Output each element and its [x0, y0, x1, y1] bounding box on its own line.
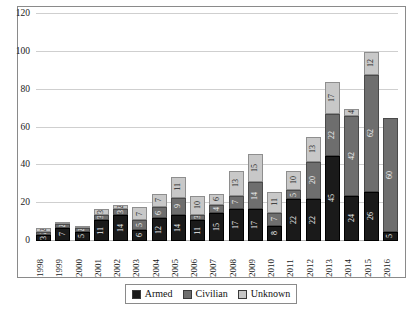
bar-segment-unknown[interactable]: 11	[171, 177, 186, 198]
bar-segment-armed[interactable]: 14	[171, 215, 186, 241]
bar-value-label: 17	[232, 221, 240, 229]
bar-value-label: 5	[290, 193, 298, 197]
bar-segment-civilian[interactable]: 62	[364, 75, 379, 192]
bar-segment-civilian[interactable]: 4	[209, 205, 224, 213]
bar-segment-armed[interactable]: 3	[36, 235, 51, 241]
bar-segment-unknown[interactable]: 10	[190, 196, 205, 215]
bar-value-label: 5	[386, 234, 394, 238]
bar-segment-armed[interactable]: 22	[286, 199, 301, 241]
bar-value-label: 6	[213, 197, 221, 201]
bar-segment-civilian[interactable]: 5	[286, 190, 301, 199]
bar-value-label: 6	[136, 233, 144, 237]
bar-column[interactable]: 151417	[248, 14, 263, 241]
plot-area: 2231271253311231475676121191410311641513…	[36, 14, 398, 241]
bar-value-label: 62	[367, 129, 375, 137]
bar-segment-armed[interactable]: 14	[113, 215, 128, 241]
bar-segment-unknown[interactable]: 6	[209, 194, 224, 205]
bar-segment-civilian[interactable]: 20	[306, 162, 321, 200]
bar-column[interactable]: 7612	[152, 14, 167, 241]
bar-column[interactable]: 10522	[286, 14, 301, 241]
bar-value-label: 22	[309, 216, 317, 224]
bar-segment-armed[interactable]: 11	[94, 220, 109, 241]
bar-column[interactable]: 132022	[306, 14, 321, 241]
y-tick-label: 80	[21, 85, 31, 95]
bar-segment-unknown[interactable]: 12	[364, 52, 379, 75]
x-tick-label: 2002	[113, 243, 128, 277]
bar-segment-armed[interactable]: 24	[344, 196, 359, 241]
bar-value-label: 7	[271, 217, 279, 221]
bar-segment-armed[interactable]: 22	[306, 199, 321, 241]
bar-column[interactable]: 756	[132, 14, 147, 241]
x-tick-label: 2007	[209, 243, 224, 277]
x-tick-label: 2014	[344, 243, 359, 277]
bar-column[interactable]: 3311	[94, 14, 109, 241]
y-tick-label: 60	[21, 123, 31, 133]
bar-segment-armed[interactable]: 17	[248, 209, 263, 241]
bar-segment-unknown[interactable]: 13	[306, 137, 321, 162]
bar-value-label: 22	[290, 216, 298, 224]
legend-label: Unknown	[251, 289, 290, 299]
x-axis: 1998199920002001200220032004200520062007…	[36, 243, 398, 277]
bar-column[interactable]: 127	[55, 14, 70, 241]
bar-segment-civilian[interactable]: 14	[248, 182, 263, 208]
bar-column[interactable]: 11914	[171, 14, 186, 241]
bar-segment-armed[interactable]: 12	[152, 218, 167, 241]
bar-value-label: 5	[78, 234, 86, 238]
bar-segment-civilian[interactable]: 7	[229, 196, 244, 209]
bar-segment-unknown[interactable]: 7	[152, 194, 167, 207]
bar-column[interactable]: 10311	[190, 14, 205, 241]
bar-column[interactable]: 172245	[325, 14, 340, 241]
bar-column[interactable]: 125	[75, 14, 90, 241]
bar-segment-armed[interactable]: 5	[383, 232, 398, 241]
bar-segment-unknown[interactable]: 10	[286, 171, 301, 190]
x-tick-label: 2003	[132, 243, 147, 277]
bar-segment-unknown[interactable]: 4	[344, 109, 359, 117]
bar-value-label: 4	[348, 110, 356, 114]
bar-segment-armed[interactable]: 26	[364, 192, 379, 241]
x-tick-label: 2004	[152, 243, 167, 277]
bar-segment-civilian[interactable]: 22	[325, 114, 340, 156]
bar-segment-civilian[interactable]: 7	[267, 213, 282, 226]
bar-segment-civilian[interactable]: 60	[383, 118, 398, 232]
bar-column[interactable]: 2314	[113, 14, 128, 241]
bar-column[interactable]: 13717	[229, 14, 244, 241]
bar-segment-civilian[interactable]: 9	[171, 198, 186, 215]
bar-segment-unknown[interactable]: 11	[267, 192, 282, 213]
bar-segment-armed[interactable]: 6	[132, 230, 147, 241]
bar-value-label: 14	[251, 192, 259, 200]
y-axis: 020406080100120	[0, 0, 34, 241]
bar-column[interactable]: 223	[36, 14, 51, 241]
legend-item-armed[interactable]: Armed	[132, 289, 173, 299]
bar-segment-armed[interactable]: 15	[209, 213, 224, 241]
bar-segment-civilian[interactable]: 42	[344, 116, 359, 195]
bar-segment-armed[interactable]: 7	[55, 228, 70, 241]
bar-segment-unknown[interactable]: 13	[229, 171, 244, 196]
bar-value-label: 3	[97, 210, 105, 214]
bar-segment-armed[interactable]: 11	[190, 220, 205, 241]
bar-value-label: 7	[59, 232, 67, 236]
legend-label: Armed	[145, 289, 173, 299]
bar-segment-armed[interactable]: 45	[325, 156, 340, 241]
bar-value-label: 42	[348, 152, 356, 160]
legend-item-unknown[interactable]: Unknown	[238, 289, 290, 299]
bar-segment-unknown[interactable]: 17	[325, 82, 340, 114]
bar-segment-civilian[interactable]: 5	[132, 220, 147, 229]
y-tick-label: 40	[21, 161, 31, 171]
bar-column[interactable]: 1178	[267, 14, 282, 241]
legend-item-civilian[interactable]: Civilian	[183, 289, 228, 299]
bar-segment-armed[interactable]: 8	[267, 226, 282, 241]
bar-column[interactable]: 44224	[344, 14, 359, 241]
bar-column[interactable]: 6415	[209, 14, 224, 241]
bar-segment-armed[interactable]: 17	[229, 209, 244, 241]
bar-value-label: 13	[232, 179, 240, 187]
x-tick-label: 2015	[364, 243, 379, 277]
bar-column[interactable]: 126226	[364, 14, 379, 241]
bar-value-label: 60	[386, 171, 394, 179]
bar-segment-civilian[interactable]: 6	[152, 207, 167, 218]
chart-legend: ArmedCivilianUnknown	[125, 284, 297, 304]
bar-column[interactable]: 605	[383, 14, 398, 241]
bar-segment-armed[interactable]: 5	[75, 232, 90, 241]
bar-segment-unknown[interactable]: 15	[248, 154, 263, 182]
bar-segment-unknown[interactable]: 7	[132, 207, 147, 220]
bar-value-label: 11	[174, 183, 182, 191]
